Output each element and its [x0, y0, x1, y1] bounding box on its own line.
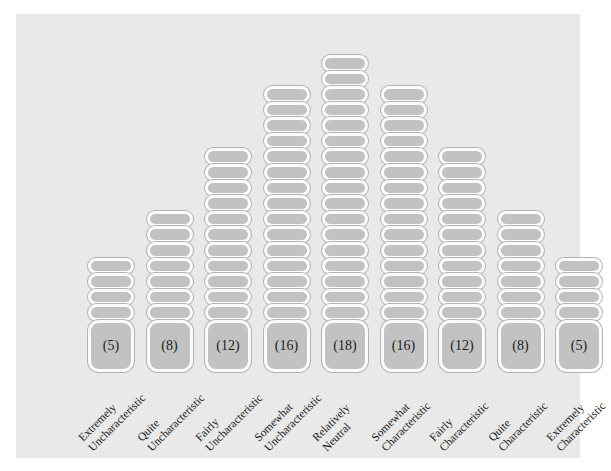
card-stack-column: (5) — [88, 259, 134, 372]
card-stack-column: (8) — [498, 212, 544, 372]
stack-base-card: (5) — [88, 320, 134, 372]
stack-card — [205, 226, 251, 243]
stack-card — [88, 258, 134, 275]
stack-card — [498, 242, 544, 259]
stack-card — [556, 258, 602, 275]
card-stack-column: (12) — [439, 149, 485, 372]
stack-card — [264, 195, 310, 212]
stack-card — [322, 211, 368, 228]
card-count-label: (8) — [161, 339, 177, 353]
card-count-label: (16) — [275, 339, 298, 353]
stack-card — [381, 86, 427, 103]
stack-card — [498, 211, 544, 228]
stack-card — [147, 273, 193, 290]
stack-base-card: (8) — [147, 320, 193, 372]
card-count-label: (12) — [450, 339, 473, 353]
stack-card — [264, 86, 310, 103]
stack-card — [381, 148, 427, 165]
stack-card — [439, 242, 485, 259]
stack-card — [381, 102, 427, 119]
stack-card — [322, 195, 368, 212]
card-count-label: (8) — [512, 339, 528, 353]
stack-card — [264, 211, 310, 228]
stack-card — [322, 226, 368, 243]
stack-card — [381, 117, 427, 134]
stack-card — [264, 133, 310, 150]
stack-card — [498, 304, 544, 321]
card-stack-column: (5) — [556, 259, 602, 372]
stack-card — [147, 211, 193, 228]
stack-base-card: (12) — [205, 320, 251, 372]
card-stack-column: (16) — [381, 87, 427, 372]
card-stack-columns: (5)ExtremelyUncharacteristic(8)QuiteUnch… — [16, 14, 580, 458]
stack-card — [264, 304, 310, 321]
stack-card — [264, 102, 310, 119]
card-count-label: (18) — [333, 339, 356, 353]
stack-card — [205, 195, 251, 212]
stack-card — [264, 164, 310, 181]
stack-card — [264, 242, 310, 259]
stack-card — [322, 148, 368, 165]
stack-card — [205, 304, 251, 321]
stack-card — [147, 242, 193, 259]
stack-card — [498, 289, 544, 306]
stack-card — [147, 289, 193, 306]
stack-card — [322, 304, 368, 321]
stack-card — [439, 195, 485, 212]
stack-card — [322, 289, 368, 306]
stack-card — [381, 258, 427, 275]
stack-card — [381, 195, 427, 212]
stack-card — [205, 289, 251, 306]
stack-card — [381, 133, 427, 150]
card-count-label: (16) — [392, 339, 415, 353]
stack-card — [88, 273, 134, 290]
stack-card — [381, 180, 427, 197]
stack-card — [381, 211, 427, 228]
stack-card — [264, 273, 310, 290]
stack-card — [264, 180, 310, 197]
stack-card — [439, 289, 485, 306]
stack-card — [205, 211, 251, 228]
stack-base-card: (16) — [264, 320, 310, 372]
stack-card — [264, 258, 310, 275]
stack-card — [439, 273, 485, 290]
stack-card — [381, 273, 427, 290]
card-stack-column: (12) — [205, 149, 251, 372]
stack-card — [205, 273, 251, 290]
stack-card — [439, 180, 485, 197]
stack-card — [439, 164, 485, 181]
stack-card — [205, 164, 251, 181]
card-count-label: (5) — [103, 339, 119, 353]
stack-card — [322, 117, 368, 134]
stack-card — [498, 258, 544, 275]
stack-card — [322, 102, 368, 119]
stack-base-card: (5) — [556, 320, 602, 372]
stack-card — [556, 273, 602, 290]
stack-base-card: (8) — [498, 320, 544, 372]
stack-card — [322, 86, 368, 103]
stack-card — [322, 180, 368, 197]
stack-card — [147, 258, 193, 275]
stack-card — [439, 258, 485, 275]
stack-card — [381, 289, 427, 306]
stack-card — [381, 164, 427, 181]
stack-card — [322, 273, 368, 290]
card-count-label: (5) — [571, 339, 587, 353]
stack-card — [147, 304, 193, 321]
stack-card — [556, 304, 602, 321]
stack-card — [498, 273, 544, 290]
stack-card — [264, 226, 310, 243]
stack-card — [205, 180, 251, 197]
stack-card — [322, 133, 368, 150]
stack-base-card: (12) — [439, 320, 485, 372]
stack-card — [439, 211, 485, 228]
card-stack-column: (16) — [264, 87, 310, 372]
stack-card — [264, 289, 310, 306]
stack-card — [88, 304, 134, 321]
stack-card — [439, 226, 485, 243]
stack-card — [205, 258, 251, 275]
stack-card — [381, 304, 427, 321]
stack-card — [322, 258, 368, 275]
stack-card — [556, 289, 602, 306]
stack-card — [322, 164, 368, 181]
